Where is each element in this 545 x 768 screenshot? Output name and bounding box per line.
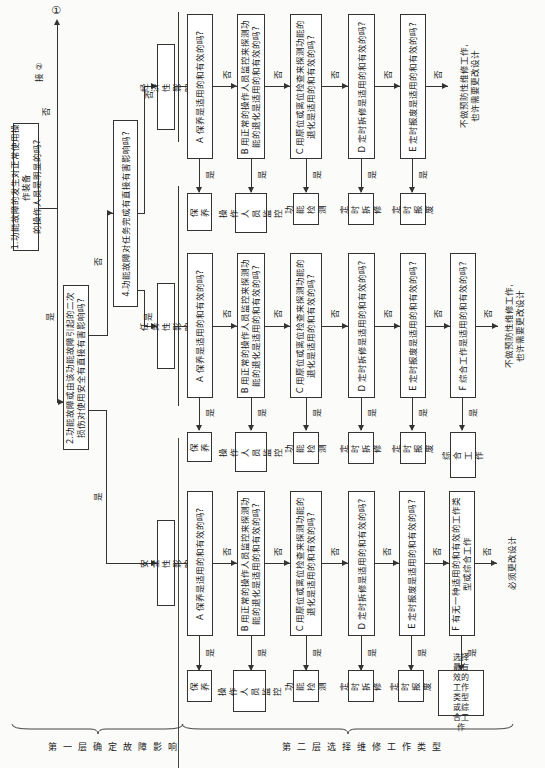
goto-circle-1: ① xyxy=(51,4,61,17)
safety-task-5: 选择最有 效的工作 类型或综 合工作 xyxy=(438,670,484,716)
arrow-right-icon xyxy=(491,560,497,566)
yes-label: 是 xyxy=(91,492,103,501)
arrow-right-icon xyxy=(342,323,348,329)
arrow-down-icon xyxy=(248,425,254,431)
arrow-right-icon xyxy=(284,83,290,89)
question-text: D 定时拆修是适用的和有效的吗? xyxy=(356,14,367,159)
safety-task-1: 操作人 员监控 xyxy=(233,670,266,712)
arrow-right-icon xyxy=(342,560,348,566)
question-4-box: 4.功能故障对任务完成有直接有害影响吗? xyxy=(113,120,138,307)
arrow-down-icon xyxy=(409,425,415,431)
yes-label: 是 xyxy=(466,408,478,417)
econ-task-4: 定时 报废 xyxy=(400,193,426,225)
mission-question-a: A 保养是适用的和有效的吗? xyxy=(187,253,213,398)
layer-divider xyxy=(178,12,179,142)
question-4-text: 4.功能故障对任务完成有直接有害影响吗? xyxy=(120,120,131,307)
layer1-brace xyxy=(10,722,185,736)
econ-task-1: 操作人 员监控 xyxy=(235,193,267,233)
task-text: 保养 xyxy=(189,206,211,218)
arrow-right-icon xyxy=(231,323,237,329)
safety-task-4: 定时 报废 xyxy=(398,670,424,702)
econ-question-e: E 定时报废是适用的和有效的吗? xyxy=(400,14,426,159)
safety-question-d: D 定时拆修是适用的和有效的吗? xyxy=(348,491,375,636)
arrow-right-icon xyxy=(443,560,449,566)
arrow-right-icon xyxy=(492,323,498,329)
no-label: 否 xyxy=(271,547,283,556)
mission-task-5: 综合工作 xyxy=(450,432,476,478)
safety-task-2: 功能 检测 xyxy=(293,670,319,702)
mission-task-0: 保养 xyxy=(187,432,212,462)
task-text: 定时 拆修 xyxy=(339,442,383,454)
arrow-right-icon xyxy=(442,83,448,89)
question-text: C 用原位或离位检查来探测功能的 退化是适用的和有效的吗? xyxy=(295,253,317,398)
no-label: 否 xyxy=(481,309,493,318)
yes-label: 是 xyxy=(365,648,377,657)
question-text: B 用正常的操作人员监控来探测功 能的退化是适用的和有效的吗? xyxy=(240,253,262,398)
yes-label: 是 xyxy=(203,170,215,179)
task-text: 操作人 员监控 xyxy=(218,206,284,221)
arrow-down-icon xyxy=(358,425,364,431)
question-text: F 有无一种适用的和有效的工作类 型或综合工作 xyxy=(451,491,473,636)
mission-question-b: B 用正常的操作人员监控来探测功 能的退化是适用的和有效的吗? xyxy=(237,253,265,398)
no-label: 否 xyxy=(480,547,492,556)
safety-question-c: C 用原位或离位检查来探测功能的 退化是适用的和有效的吗? xyxy=(290,491,322,636)
task-text: 操作人 员监控 xyxy=(217,683,283,699)
task-text: 功能 检测 xyxy=(284,203,328,215)
connector xyxy=(89,410,106,411)
question-text: D 定时拆修是适用的和有效的吗? xyxy=(356,491,367,636)
safety-question-b: B 用正常的操作人员监控来探测功 能的退化是适用的和有效的吗? xyxy=(237,491,265,636)
econ-task-2: 功能 检测 xyxy=(293,193,319,225)
question-2-box: 2.功能故障或由该功能故障引起的二次 损伤对使用安全有直接有害影响吗? xyxy=(63,285,89,450)
no-label: 否 xyxy=(220,309,232,318)
layer-divider xyxy=(178,186,179,406)
no-label: 否 xyxy=(430,547,442,556)
question-text: E 定时报废是适用的和有效的吗? xyxy=(408,253,419,398)
layer2-brace xyxy=(180,722,515,736)
task-text: 操作人 员监控 xyxy=(218,445,284,460)
goto-2-label: 接 ② xyxy=(32,62,44,81)
yes-label: 是 xyxy=(416,408,428,417)
econ-task-0: 保养 xyxy=(187,193,212,231)
mission-outcome: 不做预防性维修工作, 也许需要更改设计 xyxy=(504,276,526,376)
connector xyxy=(175,563,187,564)
task-text: 选择最有 效的工作 类型或综 合工作 xyxy=(450,653,472,733)
yes-label: 是 xyxy=(310,648,322,657)
safety-task-3: 定时 拆修 xyxy=(348,670,374,702)
arrow-up-icon xyxy=(54,19,60,25)
no-label: 否 xyxy=(328,309,340,318)
yes-label: 是 xyxy=(416,170,428,179)
question-text: C 用原位或离位检查来探测功能的 退化是适用的和有效的吗? xyxy=(295,491,317,636)
connector xyxy=(107,213,108,336)
safety-question-e: E 定时报废是适用的和有效的吗? xyxy=(399,491,425,636)
yes-label: 是 xyxy=(203,408,215,417)
question-text: B 用正常的操作人员监控来探测功 能的退化是适用的和有效的吗? xyxy=(240,14,262,159)
yes-label: 是 xyxy=(203,648,215,657)
question-text: A 保养是适用的和有效的吗? xyxy=(195,491,206,636)
no-label: 否 xyxy=(328,547,340,556)
category-economic: 经济性影响 xyxy=(157,44,175,130)
no-label: 否 xyxy=(39,107,51,116)
econ-question-c: C 用原位或离位检查来探测功能的 退化是适用的和有效的吗? xyxy=(290,14,322,159)
task-text: 定时 报废 xyxy=(391,442,435,454)
task-text: 功能 检测 xyxy=(284,680,328,692)
category-mission: 任务性影响 xyxy=(157,283,175,369)
connector xyxy=(106,410,107,563)
safety-question-a: A 保养是适用的和有效的吗? xyxy=(187,491,213,636)
no-label: 否 xyxy=(271,70,283,79)
yes-label: 是 xyxy=(310,170,322,179)
mission-task-1: 操作人 员监控 xyxy=(235,432,267,472)
task-text: 功能 检测 xyxy=(284,442,328,454)
arrow-right-icon xyxy=(393,560,399,566)
mission-task-2: 功能 检测 xyxy=(293,432,319,464)
task-text: 定时 拆修 xyxy=(339,680,383,692)
task-text: 保养 xyxy=(189,441,211,453)
arrow-down-icon xyxy=(303,425,309,431)
no-label: 否 xyxy=(328,70,340,79)
question-text: A 保养是适用的和有效的吗? xyxy=(195,253,206,398)
connector xyxy=(175,86,187,87)
question-text: A 保养是适用的和有效的吗? xyxy=(195,14,206,159)
task-text: 定时 报废 xyxy=(389,680,433,692)
question-text: D 定时拆修是适用的和有效的吗? xyxy=(356,253,367,398)
question-text: C 用原位或离位检查来探测功能的 退化是适用的和有效的吗? xyxy=(295,14,317,159)
layer-divider xyxy=(178,438,179,768)
